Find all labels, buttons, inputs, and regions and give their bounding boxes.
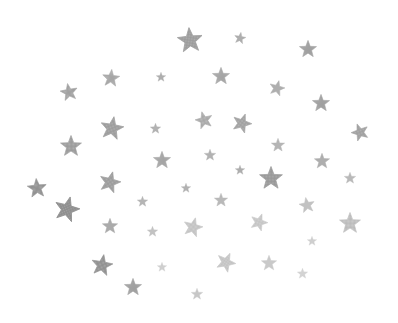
star-icon (259, 166, 283, 190)
star-icon (267, 78, 287, 98)
star-icon (51, 193, 83, 225)
star-icon (233, 31, 247, 45)
star-icon (314, 153, 330, 169)
star-icon (213, 249, 240, 276)
star-icon (229, 110, 255, 136)
star-icon (124, 278, 142, 296)
star-icon (307, 236, 317, 246)
star-icon (312, 94, 330, 112)
star-icon (261, 255, 277, 271)
star-icon (157, 262, 167, 272)
star-icon (156, 72, 166, 82)
star-icon (214, 193, 228, 207)
star-icon (89, 252, 114, 277)
star-icon (193, 109, 215, 131)
star-icon (298, 196, 317, 215)
star-icon (137, 196, 148, 207)
star-icon (147, 226, 158, 237)
star-icon (297, 268, 308, 279)
star-icon (59, 82, 80, 103)
star-icon (181, 215, 205, 239)
star-icon (98, 114, 126, 142)
star-icon (204, 149, 216, 161)
star-icon (153, 151, 171, 169)
star-icon (247, 210, 270, 233)
star-icon (235, 165, 245, 175)
star-icon (191, 288, 203, 300)
star-icon (101, 68, 121, 88)
star-icon (344, 172, 356, 184)
star-icon (26, 177, 48, 199)
star-icon (102, 218, 118, 234)
star-icon (299, 40, 317, 58)
star-icon (348, 120, 371, 143)
star-icon (181, 183, 191, 193)
star-icon (339, 212, 361, 234)
star-icon (271, 138, 285, 152)
star-icon (176, 26, 204, 54)
star-icon (60, 135, 82, 157)
star-scatter-image (0, 0, 398, 323)
star-icon (97, 169, 124, 196)
star-icon (150, 123, 161, 134)
star-icon (212, 67, 230, 85)
